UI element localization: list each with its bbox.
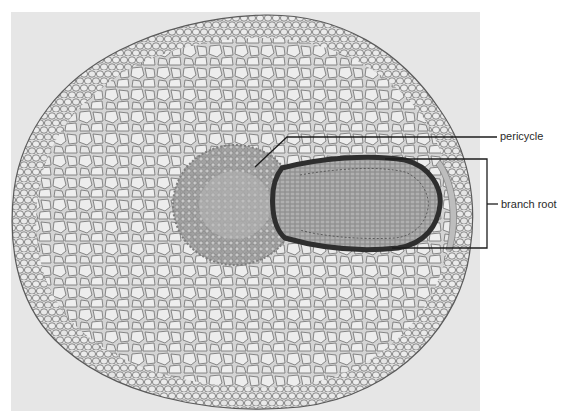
branch-root [273, 157, 441, 249]
micrograph-photo [11, 12, 480, 411]
pericycle-label: pericycle [500, 130, 543, 142]
branch-root-label: branch root [501, 198, 557, 210]
